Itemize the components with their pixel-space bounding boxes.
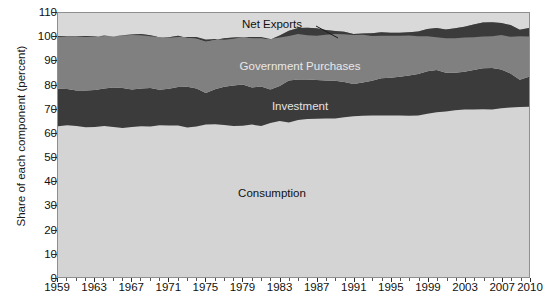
x-tick-mark-minor (382, 278, 383, 281)
x-tick-mark-major (428, 278, 429, 282)
consumption-label: Consumption (238, 187, 306, 199)
x-tick-mark-minor (224, 278, 225, 281)
x-tick-label: 1991 (341, 281, 367, 293)
x-axis-ticks: 1959196319671971197519791983198719911995… (0, 0, 550, 305)
x-tick-mark-major (465, 278, 466, 282)
x-tick-mark-minor (474, 278, 475, 281)
net-exports-label: Net Exports (242, 18, 302, 30)
x-tick-mark-minor (113, 278, 114, 281)
x-tick-label: 1999 (415, 281, 441, 293)
x-tick-mark-minor (326, 278, 327, 281)
x-tick-label: 1995 (378, 281, 404, 293)
x-tick-mark-major (131, 278, 132, 282)
x-tick-mark-major (57, 278, 58, 282)
x-tick-mark-minor (150, 278, 151, 281)
x-tick-mark-minor (85, 278, 86, 281)
x-tick-mark-minor (298, 278, 299, 281)
x-tick-mark-minor (447, 278, 448, 281)
x-tick-mark-major (317, 278, 318, 282)
x-tick-label: 1959 (44, 281, 70, 293)
x-tick-label: 1963 (81, 281, 107, 293)
x-tick-label: 1987 (304, 281, 330, 293)
x-tick-label: 1967 (118, 281, 144, 293)
x-tick-label: 2007 (489, 281, 515, 293)
x-tick-mark-minor (400, 278, 401, 281)
x-tick-mark-major (280, 278, 281, 282)
x-tick-mark-minor (215, 278, 216, 281)
x-tick-mark-minor (372, 278, 373, 281)
x-tick-mark-major (391, 278, 392, 282)
x-tick-mark-minor (493, 278, 494, 281)
x-tick-mark-major (205, 278, 206, 282)
x-tick-label: 1975 (193, 281, 219, 293)
x-tick-mark-minor (261, 278, 262, 281)
x-tick-mark-minor (289, 278, 290, 281)
x-tick-mark-minor (233, 278, 234, 281)
x-tick-mark-minor (335, 278, 336, 281)
x-tick-mark-minor (122, 278, 123, 281)
government-purchases-label: Government Purchases (240, 60, 361, 72)
x-tick-mark-major (502, 278, 503, 282)
x-tick-mark-minor (252, 278, 253, 281)
x-tick-label: 1979 (230, 281, 256, 293)
x-tick-mark-minor (437, 278, 438, 281)
x-tick-mark-minor (140, 278, 141, 281)
x-tick-mark-minor (307, 278, 308, 281)
x-tick-mark-minor (456, 278, 457, 281)
x-tick-mark-minor (187, 278, 188, 281)
stacked-area-chart-figure: Share of each component (percent) 010203… (0, 0, 550, 305)
x-tick-mark-minor (270, 278, 271, 281)
x-tick-mark-minor (76, 278, 77, 281)
x-tick-mark-major (530, 278, 531, 282)
x-tick-mark-minor (345, 278, 346, 281)
x-tick-mark-minor (66, 278, 67, 281)
x-tick-mark-minor (511, 278, 512, 281)
x-tick-label: 2010 (517, 281, 543, 293)
x-tick-label: 1983 (267, 281, 293, 293)
x-tick-mark-minor (484, 278, 485, 281)
x-tick-label: 2003 (452, 281, 478, 293)
x-tick-label: 1971 (155, 281, 181, 293)
x-tick-mark-minor (521, 278, 522, 281)
x-tick-mark-major (168, 278, 169, 282)
x-tick-mark-major (242, 278, 243, 282)
x-tick-mark-minor (159, 278, 160, 281)
x-tick-mark-minor (363, 278, 364, 281)
x-tick-mark-major (94, 278, 95, 282)
x-tick-mark-minor (178, 278, 179, 281)
investment-label: Investment (272, 100, 328, 112)
x-tick-mark-minor (103, 278, 104, 281)
x-tick-mark-minor (419, 278, 420, 281)
x-tick-mark-minor (409, 278, 410, 281)
x-tick-mark-minor (196, 278, 197, 281)
x-tick-mark-major (354, 278, 355, 282)
